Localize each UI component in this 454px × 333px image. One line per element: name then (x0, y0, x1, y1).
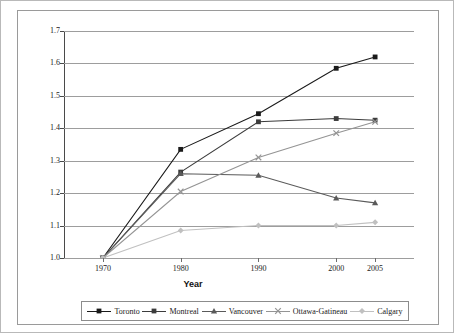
x-tick (336, 258, 337, 262)
legend-label: Ottawa-Gatineau (293, 307, 348, 316)
data-point-square (178, 147, 183, 152)
legend-item-montreal[interactable]: Montreal (142, 306, 198, 316)
series-line (103, 119, 375, 258)
data-point-triangle (211, 308, 217, 314)
legend-item-ottawa-gatineau[interactable]: Ottawa-Gatineau (266, 306, 348, 316)
legend-label: Montreal (169, 307, 198, 316)
series-line (103, 222, 375, 258)
y-tick-label: 1.6 (20, 59, 60, 67)
data-point-square (97, 309, 102, 314)
x-tick (103, 258, 104, 262)
gridline (64, 258, 414, 259)
data-point-square (152, 309, 157, 314)
legend-marker-icon (266, 306, 290, 316)
legend-label: Calgary (377, 307, 402, 316)
data-point-x (275, 308, 281, 314)
y-tick (60, 258, 64, 259)
data-point-square (334, 116, 339, 121)
data-point-diamond (178, 227, 184, 233)
legend-marker-icon (87, 306, 111, 316)
data-point-square (373, 55, 378, 60)
y-tick-label: 1.4 (20, 124, 60, 132)
legend-item-toronto[interactable]: Toronto (87, 306, 139, 316)
y-tick-label: 1.7 (20, 27, 60, 35)
series-ottawa-gatineau (100, 119, 378, 258)
chart-figure: 1.01.11.21.31.41.51.61.7 197019801990200… (17, 10, 439, 325)
x-tick-label: 1990 (233, 264, 283, 273)
legend-item-vancouver[interactable]: Vancouver (202, 306, 263, 316)
y-tick-label: 1.0 (20, 254, 60, 262)
x-tick-label: 2005 (350, 264, 400, 273)
series-line (103, 57, 375, 258)
data-point-diamond (333, 223, 339, 229)
x-tick (258, 258, 259, 262)
data-point-diamond (255, 223, 261, 229)
chart-legend: TorontoMontrealVancouverOttawa-GatineauC… (81, 301, 409, 321)
series-montreal (100, 116, 377, 258)
x-tick-label: 1980 (156, 264, 206, 273)
y-tick-label: 1.5 (20, 92, 60, 100)
legend-label: Toronto (114, 307, 139, 316)
x-axis-title: Year (18, 279, 368, 289)
legend-marker-icon (350, 306, 374, 316)
x-tick (181, 258, 182, 262)
legend-item-calgary[interactable]: Calgary (350, 306, 402, 316)
data-point-square (256, 119, 261, 124)
data-point-diamond (359, 308, 365, 314)
data-point-x (256, 155, 262, 161)
data-point-x (178, 189, 184, 195)
image-frame: 1.01.11.21.31.41.51.61.7 197019801990200… (0, 0, 454, 333)
x-tick-label: 1970 (78, 264, 128, 273)
data-point-square (334, 66, 339, 71)
series-line (103, 122, 375, 258)
plot-area: 1.01.11.21.31.41.51.61.7 197019801990200… (64, 31, 414, 257)
legend-label: Vancouver (229, 307, 263, 316)
y-tick-label: 1.2 (20, 189, 60, 197)
data-point-square (256, 111, 261, 116)
legend-marker-icon (142, 306, 166, 316)
data-point-diamond (372, 219, 378, 225)
y-tick-label: 1.1 (20, 222, 60, 230)
series-vancouver (100, 171, 378, 258)
legend-marker-icon (202, 306, 226, 316)
x-tick (375, 258, 376, 262)
series-layer (64, 31, 414, 258)
series-line (103, 174, 375, 258)
y-tick-label: 1.3 (20, 157, 60, 165)
